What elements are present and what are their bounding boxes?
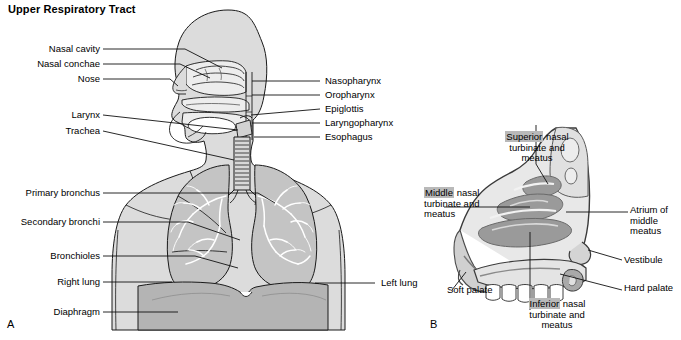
label-oropharynx: Oropharynx [325,90,375,101]
label-atrium-of-middle-meatus: Atrium of middle meatus [630,205,668,237]
middle-rest: nasal [454,187,479,198]
label-inferior-nasal-turbinate: Inferior nasal turbinate and meatus [508,299,606,331]
label-esophagus: Esophagus [325,132,373,143]
label-nasal-cavity: Nasal cavity [0,44,100,55]
label-nose: Nose [0,74,100,85]
label-larynx: Larynx [0,110,100,121]
label-hard-palate: Hard palate [624,283,673,294]
middle-line3: meatus [424,208,455,219]
respiratory-tract-figure: Upper Respiratory Tract [0,0,681,340]
label-secondary-bronchi: Secondary bronchi [0,217,100,228]
label-vestibule: Vestibule [624,255,663,266]
label-left-lung: Left lung [381,278,417,289]
label-diaphragm: Diaphragm [0,307,100,318]
label-nasopharynx: Nasopharynx [325,76,381,87]
superior-line3: meatus [521,152,552,163]
inferior-line3: meatus [541,319,572,330]
inferior-rest: nasal [560,298,585,309]
label-laryngopharynx: Laryngopharynx [325,118,393,129]
face-profile-detail [169,61,252,143]
middle-line2: turbinate and [424,198,479,209]
diaphragm [138,282,328,330]
atrium-line2: middle [630,215,658,226]
label-soft-palate: Soft palate [447,285,492,296]
label-nasal-conchae: Nasal conchae [0,59,100,70]
label-middle-nasal-turbinate: Middle nasal turbinate and meatus [424,188,510,220]
superior-rest: nasal [543,131,568,142]
panel-letter-b: B [430,318,437,330]
inferior-line2: turbinate and [529,309,584,320]
superior-line2: turbinate and [509,142,564,153]
label-primary-bronchus: Primary bronchus [0,188,100,199]
middle-highlight: Middle [424,187,454,198]
label-epiglottis: Epiglottis [325,104,364,115]
label-right-lung: Right lung [0,277,100,288]
inferior-highlight: Inferior [529,298,561,309]
atrium-line1: Atrium of [630,204,668,215]
superior-highlight: Superior [505,131,543,142]
label-trachea: Trachea [0,126,100,137]
label-bronchioles: Bronchioles [0,251,100,262]
left-lung [252,165,317,290]
panel-letter-a: A [7,318,14,330]
label-superior-nasal-turbinate: Superior nasal turbinate and meatus [487,132,587,164]
atrium-line3: meatus [630,225,661,236]
